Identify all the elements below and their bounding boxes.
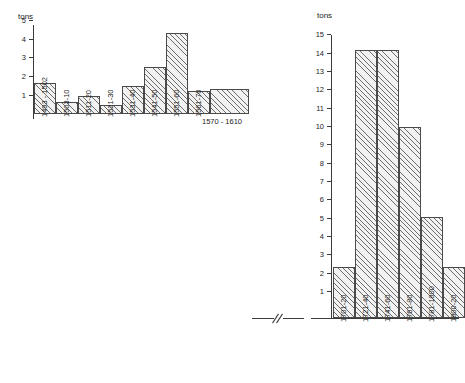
right-y-tick-4 (327, 236, 331, 237)
axis-break-line-left (252, 318, 274, 319)
left-cat-label-0: 1493 - 1502 (41, 77, 49, 117)
right-y-tick-label-9: 9 (308, 141, 324, 149)
left-cat-label-3: 1521-30 (107, 89, 115, 117)
right-y-tick-label-7: 7 (308, 178, 324, 186)
right-y-tick-label-15: 15 (308, 31, 324, 39)
right-y-tick-11 (327, 108, 331, 109)
right-cat-label-4: 1781-1800 (428, 286, 436, 322)
right-y-tick-label-12: 12 (308, 86, 324, 94)
right-cat-label-5: 1800-20 (450, 294, 458, 322)
left-cat-label-2: 1511-20 (85, 90, 93, 117)
left-cat-label-1: 1503-10 (63, 89, 71, 117)
right-y-tick-1 (327, 291, 331, 292)
right-y-tick-3 (327, 254, 331, 255)
left-cat-label-5: 1541-50 (151, 89, 159, 117)
right-y-tick-13 (327, 71, 331, 72)
left-y-tick-label-1: 1 (12, 92, 26, 100)
left-y-tick-1 (29, 95, 33, 96)
right-y-tick-12 (327, 89, 331, 90)
right-y-tick-label-4: 4 (308, 233, 324, 241)
right-y-tick-7 (327, 181, 331, 182)
right-cat-label-1: 1721-40 (362, 294, 370, 322)
right-y-tick-9 (327, 144, 331, 145)
bar-right-1 (355, 50, 377, 318)
right-y-tick-label-6: 6 (308, 196, 324, 204)
right-cat-label-2: 1741-60 (384, 294, 392, 322)
right-y-tick-10 (327, 126, 331, 127)
left-cat-label-6: 1551-60 (173, 89, 181, 117)
bar-right-3 (399, 127, 421, 318)
right-y-tick-label-10: 10 (308, 123, 324, 131)
right-y-tick-label-1: 1 (308, 288, 324, 296)
right-y-tick-14 (327, 53, 331, 54)
left-y-tick-label-4: 4 (12, 36, 26, 44)
left-chart-panel: tons 5 4 3 2 1 1493 - 1502 1503-10 1511-… (0, 0, 270, 178)
left-cat-label-7: 1561-70 (195, 89, 203, 117)
bar-left-8 (210, 89, 249, 114)
left-y-tick-3 (29, 57, 33, 58)
right-y-tick-label-14: 14 (308, 50, 324, 58)
right-y-tick-label-13: 13 (308, 68, 324, 76)
bar-right-2 (377, 50, 399, 318)
right-y-tick-label-3: 3 (308, 251, 324, 259)
right-y-tick-5 (327, 218, 331, 219)
right-y-tick-15 (327, 34, 331, 35)
left-y-tick-2 (29, 76, 33, 77)
right-y-tick-label-11: 11 (308, 105, 324, 113)
left-y-tick-4 (29, 39, 33, 40)
right-y-tick-2 (327, 273, 331, 274)
right-y-tick-8 (327, 163, 331, 164)
right-y-tick-6 (327, 199, 331, 200)
right-y-axis-unit-label: tons (317, 12, 332, 20)
left-y-tick-5 (29, 20, 33, 21)
left-y-tick-label-2: 2 (12, 73, 26, 81)
right-cat-label-3: 1761-80 (406, 294, 414, 322)
right-y-tick-label-5: 5 (308, 215, 324, 223)
left-y-tick-label-5: 5 (12, 17, 26, 25)
left-cat-label-4: 1531-40 (129, 89, 137, 117)
right-y-axis-line (331, 35, 332, 319)
right-y-tick-label-8: 8 (308, 160, 324, 168)
left-y-tick-label-3: 3 (12, 54, 26, 62)
right-cat-label-0: 1701-20 (340, 294, 348, 322)
right-y-tick-label-2: 2 (308, 270, 324, 278)
right-chart-panel: tons 15 14 13 12 11 10 9 8 7 6 5 4 3 2 (300, 8, 460, 383)
left-cat-label-8: 1570 - 1610 (202, 118, 242, 126)
